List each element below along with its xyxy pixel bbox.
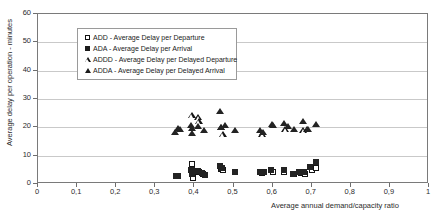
legend-item-ada: ADA - Average Delay per Arrival xyxy=(82,43,232,54)
x-tick-label: 0,4 xyxy=(178,188,208,196)
data-point-ada xyxy=(202,172,208,178)
data-point-adda xyxy=(290,126,298,132)
data-point-adda xyxy=(312,121,320,127)
plot-area: ADD - Average Delay per DepartureADA - A… xyxy=(37,13,428,183)
x-tick-label: 0,3 xyxy=(139,188,169,196)
y-tick-label: 30 xyxy=(0,94,31,102)
x-tick-label: 1 xyxy=(413,188,442,196)
legend-item-label: ADA - Average Delay per Arrival xyxy=(93,44,192,53)
legend-item-label: ADD - Average Delay per Departure xyxy=(93,33,205,42)
data-point-adda xyxy=(216,108,224,114)
y-tick-label: 0 xyxy=(0,179,31,187)
legend-item-label: ADDA - Average Delay per Delayed Arrival xyxy=(93,66,225,75)
chart-legend: ADD - Average Delay per DepartureADA - A… xyxy=(77,28,237,80)
x-tick-label: 0,5 xyxy=(218,188,248,196)
data-point-ada xyxy=(219,165,225,171)
data-point-adda xyxy=(200,127,208,133)
triangle-filled-icon xyxy=(85,68,91,73)
legend-item-adda: ADDA - Average Delay per Delayed Arrival xyxy=(82,65,232,76)
legend-item-add: ADD - Average Delay per Departure xyxy=(82,32,232,43)
legend-marker-icon xyxy=(82,68,93,73)
data-point-adda xyxy=(176,126,184,132)
x-tick-mark xyxy=(154,183,155,187)
x-tick-mark xyxy=(389,183,390,187)
y-tick-label: 60 xyxy=(0,9,31,17)
x-axis-title: Average annual demand/capacity ratio xyxy=(240,201,430,210)
data-point-adda xyxy=(269,122,277,128)
data-point-ada xyxy=(281,167,287,173)
data-point-ada xyxy=(261,169,267,175)
x-tick-label: 0,7 xyxy=(296,188,326,196)
square-open-icon xyxy=(85,35,90,40)
x-tick-label: 0,1 xyxy=(61,188,91,196)
data-point-ada xyxy=(232,169,238,175)
data-point-adda xyxy=(259,129,267,135)
legend-marker-icon xyxy=(82,46,93,51)
data-point-ada xyxy=(175,173,181,179)
data-point-adda xyxy=(299,118,307,124)
x-tick-mark xyxy=(76,183,77,187)
square-filled-icon xyxy=(85,46,90,51)
x-tick-label: 0,8 xyxy=(335,188,365,196)
data-point-ada xyxy=(290,171,296,177)
data-point-adda xyxy=(304,126,312,132)
x-tick-label: 0,2 xyxy=(100,188,130,196)
scatter-chart: Average delay per operation - minutes Av… xyxy=(0,0,442,219)
gridline xyxy=(38,156,427,157)
legend-marker-icon xyxy=(82,35,93,40)
y-tick-label: 20 xyxy=(0,122,31,130)
x-tick-mark xyxy=(311,183,312,187)
data-point-adda xyxy=(221,122,229,128)
data-point-addd xyxy=(219,131,227,137)
x-tick-mark xyxy=(37,183,38,187)
x-tick-label: 0,6 xyxy=(257,188,287,196)
data-point-ada xyxy=(268,167,274,173)
x-tick-mark xyxy=(193,183,194,187)
gridline xyxy=(38,99,427,100)
triangle-open-icon xyxy=(85,57,91,62)
x-tick-mark xyxy=(428,183,429,187)
x-tick-mark xyxy=(350,183,351,187)
data-point-adda xyxy=(188,130,196,136)
x-tick-mark xyxy=(272,183,273,187)
x-tick-mark xyxy=(115,183,116,187)
y-tick-label: 40 xyxy=(0,66,31,74)
legend-marker-icon xyxy=(82,57,93,62)
y-axis-title: Average delay per operation - minutes xyxy=(5,0,14,168)
legend-item-label: ADDD - Average Delay per Delayed Departu… xyxy=(93,55,237,64)
x-tick-label: 0,9 xyxy=(374,188,404,196)
x-tick-label: 0 xyxy=(22,188,52,196)
legend-item-addd: ADDD - Average Delay per Delayed Departu… xyxy=(82,54,232,65)
y-tick-label: 50 xyxy=(0,37,31,45)
data-point-add xyxy=(313,165,319,171)
data-point-ada xyxy=(313,159,319,165)
x-tick-mark xyxy=(233,183,234,187)
data-point-adda xyxy=(231,127,239,133)
y-tick-label: 10 xyxy=(0,151,31,159)
